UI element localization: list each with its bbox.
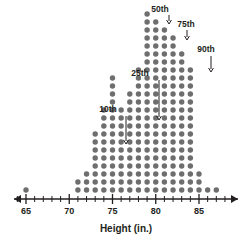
- data-dot: [127, 91, 132, 96]
- data-dot: [127, 107, 132, 112]
- data-dot: [170, 59, 175, 64]
- data-dot: [101, 179, 106, 184]
- data-dot: [136, 83, 141, 88]
- data-dot: [144, 131, 149, 136]
- data-dot: [144, 43, 149, 48]
- data-dot: [170, 147, 175, 152]
- data-dot: [153, 43, 158, 48]
- data-dot: [162, 27, 167, 32]
- data-dot: [153, 123, 158, 128]
- data-dot: [153, 83, 158, 88]
- data-dot: [144, 11, 149, 16]
- data-dot: [162, 187, 167, 192]
- data-dot: [127, 131, 132, 136]
- data-dot: [179, 91, 184, 96]
- data-dot: [170, 107, 175, 112]
- x-axis: [14, 194, 238, 204]
- data-dot: [179, 139, 184, 144]
- data-dot: [101, 147, 106, 152]
- data-dot: [110, 83, 115, 88]
- data-dot: [144, 83, 149, 88]
- data-dot: [179, 107, 184, 112]
- data-dot: [188, 83, 193, 88]
- data-dot: [127, 147, 132, 152]
- data-dot: [162, 163, 167, 168]
- percentile-arrow-10: [124, 116, 129, 144]
- data-dot: [110, 147, 115, 152]
- data-dot: [170, 43, 175, 48]
- data-dot: [205, 187, 210, 192]
- data-dot: [127, 187, 132, 192]
- data-dot: [118, 155, 123, 160]
- data-dot: [188, 147, 193, 152]
- axis-tick-label: 85: [194, 206, 204, 216]
- percentile-label-10: 10th: [99, 104, 116, 114]
- data-dot: [188, 91, 193, 96]
- data-dot: [170, 75, 175, 80]
- data-dot: [127, 115, 132, 120]
- data-dot: [144, 51, 149, 56]
- data-dot: [144, 155, 149, 160]
- data-dot: [170, 131, 175, 136]
- data-dot: [93, 155, 98, 160]
- data-dot: [162, 107, 167, 112]
- data-dot: [153, 107, 158, 112]
- data-dot: [93, 179, 98, 184]
- data-dot: [179, 179, 184, 184]
- data-dot: [118, 139, 123, 144]
- data-dot: [101, 187, 106, 192]
- data-dot: [118, 171, 123, 176]
- data-dot: [127, 163, 132, 168]
- data-dot: [179, 115, 184, 120]
- data-dot: [144, 187, 149, 192]
- data-dot: [144, 19, 149, 24]
- data-dot: [188, 187, 193, 192]
- data-dot: [153, 27, 158, 32]
- data-dot: [93, 163, 98, 168]
- data-dot: [188, 67, 193, 72]
- data-dot: [179, 171, 184, 176]
- data-dot: [188, 75, 193, 80]
- percentile-label-90: 90th: [197, 44, 214, 54]
- data-dot: [153, 147, 158, 152]
- data-dot: [162, 171, 167, 176]
- percentile-arrow-50: [167, 15, 172, 24]
- data-dot: [144, 147, 149, 152]
- data-dot: [110, 163, 115, 168]
- data-dot: [188, 131, 193, 136]
- data-dot: [144, 115, 149, 120]
- data-dot: [93, 187, 98, 192]
- data-dot: [101, 155, 106, 160]
- data-dot: [153, 179, 158, 184]
- data-dot: [110, 187, 115, 192]
- data-dot: [170, 99, 175, 104]
- data-dot: [84, 179, 89, 184]
- data-dot: [162, 115, 167, 120]
- percentile-arrow-90: [209, 56, 214, 72]
- data-dot: [136, 163, 141, 168]
- data-dot: [118, 163, 123, 168]
- data-dot: [153, 67, 158, 72]
- data-dot: [179, 155, 184, 160]
- data-dot: [118, 187, 123, 192]
- data-dot: [153, 75, 158, 80]
- data-dot: [144, 27, 149, 32]
- data-dot: [136, 147, 141, 152]
- data-dot: [179, 99, 184, 104]
- data-dot: [144, 91, 149, 96]
- x-axis-title: Height (in.): [100, 223, 152, 234]
- data-dot: [118, 131, 123, 136]
- data-dot: [153, 131, 158, 136]
- data-dot: [101, 171, 106, 176]
- data-dot: [101, 139, 106, 144]
- axis-tick-label: 80: [151, 206, 161, 216]
- data-dot: [188, 155, 193, 160]
- data-dot: [84, 187, 89, 192]
- data-dot: [110, 139, 115, 144]
- data-dot: [118, 115, 123, 120]
- data-dot: [153, 187, 158, 192]
- data-dot: [188, 99, 193, 104]
- data-dot: [188, 179, 193, 184]
- data-dot: [118, 107, 123, 112]
- data-dot: [162, 179, 167, 184]
